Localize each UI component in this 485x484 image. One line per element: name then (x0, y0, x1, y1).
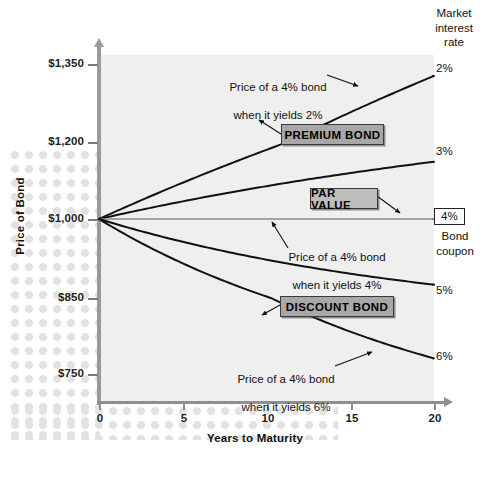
legend-rate-2pct: 2% (436, 62, 476, 74)
curve-yield-3pct (99, 162, 434, 219)
legend-title-line1: Market (436, 7, 471, 19)
bond-coupon-caption-line2: coupon (436, 245, 474, 257)
leader-par (377, 196, 400, 213)
chart-canvas: $1,350 $1,200 $1,000 $850 $750 0 5 10 15… (0, 0, 485, 484)
legend-title-line2: interest (435, 22, 473, 34)
note-yield-4pct-line2: when it yields 4% (293, 279, 382, 291)
bond-coupon-caption-line1: Bond (442, 230, 469, 242)
legend-title-line3: rate (444, 36, 464, 48)
callout-par-value[interactable]: PAR VALUE (310, 188, 378, 209)
note-yield-6pct: Price of a 4% bond when it yields 6% (227, 358, 345, 414)
legend-rate-6pct: 6% (436, 350, 476, 362)
legend-rate-3pct: 3% (436, 145, 476, 157)
note-yield-2pct-line2: when it yields 2% (234, 109, 323, 121)
note-yield-6pct-line1: Price of a 4% bond (237, 373, 334, 385)
note-yield-2pct-line1: Price of a 4% bond (229, 81, 326, 93)
bond-coupon-caption: Bond coupon (424, 229, 485, 258)
legend-title: Market interest rate (424, 6, 484, 50)
note-yield-2pct: Price of a 4% bond when it yields 2% (222, 66, 334, 122)
leader-discount (262, 305, 280, 315)
note-yield-4pct-line1: Price of a 4% bond (288, 251, 385, 263)
callout-premium-bond[interactable]: PREMIUM BOND (281, 124, 384, 145)
callout-discount-bond[interactable]: DISCOUNT BOND (280, 296, 394, 317)
legend-rate-5pct: 5% (436, 284, 476, 296)
note-yield-6pct-line2: when it yields 6% (242, 401, 331, 413)
note-yield-4pct: Price of a 4% bond when it yields 4% (278, 236, 396, 292)
bond-coupon-value: 4% (434, 208, 465, 225)
leader-premium (259, 120, 281, 134)
